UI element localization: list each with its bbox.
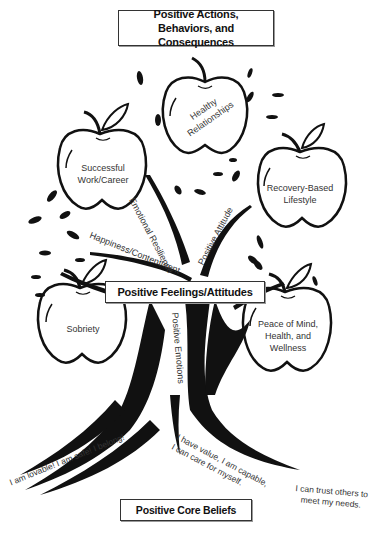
apple-label-line: Wellness xyxy=(250,342,326,354)
apple-label-line: Lifestyle xyxy=(258,194,342,206)
apple-label-peace-of-mind: Peace of Mind, Health, and Wellness xyxy=(250,318,326,354)
apple-label-successful-work: Successful Work/Career xyxy=(68,162,138,186)
apple-sobriety xyxy=(38,260,126,363)
positive-actions-line2: Behaviors, and Consequences xyxy=(119,21,273,49)
apple-label-line: Recovery-Based xyxy=(258,182,342,194)
apple-label-line: Peace of Mind, xyxy=(250,318,326,330)
positive-feelings-box: Positive Feelings/Attitudes xyxy=(105,281,265,303)
positive-actions-line1: Positive Actions, xyxy=(154,7,239,21)
positive-core-beliefs-box: Positive Core Beliefs xyxy=(120,499,252,521)
apple-label-line: Work/Career xyxy=(68,174,138,186)
apple-label-line: Sobriety xyxy=(48,323,118,335)
positive-actions-box: Positive Actions, Behaviors, and Consequ… xyxy=(118,10,274,46)
apple-successful-work xyxy=(58,104,146,209)
apple-label-recovery-lifestyle: Recovery-Based Lifestyle xyxy=(258,182,342,206)
apple-label-line: Health, and xyxy=(250,330,326,342)
apple-label-sobriety: Sobriety xyxy=(48,323,118,335)
apple-label-line: Successful xyxy=(68,162,138,174)
apple-recovery-lifestyle xyxy=(258,124,346,227)
